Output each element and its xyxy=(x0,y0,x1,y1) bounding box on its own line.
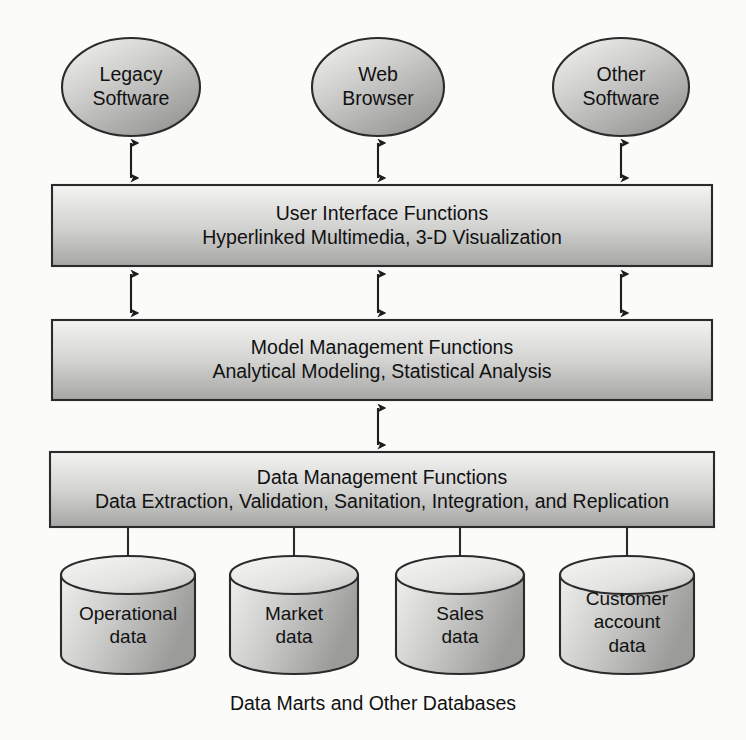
diagram-shapes xyxy=(0,0,746,740)
ellipse-legacy-software xyxy=(62,38,200,136)
box-data-management-functions xyxy=(50,452,714,527)
cylinder-sales-data xyxy=(396,556,524,674)
box-model-management-functions xyxy=(52,320,712,400)
cylinder-operational-data xyxy=(61,556,195,674)
cylinder-market-data xyxy=(230,556,358,674)
ellipse-other-software xyxy=(553,38,689,136)
decision-support-architecture-diagram: Legacy Software Web Browser Other Softwa… xyxy=(0,0,746,740)
diagram-caption: Data Marts and Other Databases xyxy=(0,692,746,715)
box-user-interface-functions xyxy=(52,185,712,266)
cylinder-customer-account-data xyxy=(560,556,694,674)
ellipse-web-browser xyxy=(312,38,444,136)
